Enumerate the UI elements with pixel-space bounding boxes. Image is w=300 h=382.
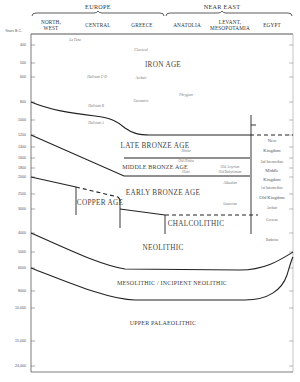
period-label: EARLY BRONZE AGE (126, 189, 201, 197)
y-tick-label: 1400 (18, 145, 26, 149)
culture-label: Hatti (181, 170, 189, 174)
egypt-period-label: Kingdom (263, 177, 281, 182)
y-tick-label: 500 (20, 61, 26, 65)
egypt-period-label: Gerzean (266, 218, 278, 222)
period-label: NEOLITHIC (142, 244, 183, 252)
y-tick-label: 1600 (18, 156, 26, 160)
column-north-west-line2: WEST (44, 25, 60, 31)
period-label: IRON AGE (145, 61, 181, 69)
period-label: MESOLITHIC / INCIPIENT NEOLITHIC (117, 280, 227, 286)
culture-label: Hittite (180, 149, 191, 153)
y-tick-label: 2500 (18, 192, 26, 196)
culture-label: Archaic (134, 76, 147, 80)
egypt-period-label: New (268, 138, 277, 143)
column-central: CENTRAL (85, 22, 110, 28)
column-greece: GREECE (131, 22, 152, 28)
culture-label: Classical (134, 48, 147, 52)
y-tick-label: 6000 (18, 266, 26, 270)
culture-label: Hallstatt B (87, 104, 104, 108)
y-axis-title: Years B.C. (5, 29, 22, 33)
egypt-period-label: 1st Intermediate (261, 186, 283, 190)
period-label: LATE BRONZE AGE (121, 142, 190, 150)
y-tick-label: 600 (20, 75, 26, 79)
chronology-diagram: EUROPE NEAR EAST NORTH, WEST CENTRAL GRE… (0, 0, 300, 382)
egypt-period-label: Archaic (267, 206, 278, 210)
period-labels: IRON AGELATE BRONZE AGEMIDDLE BRONZE AGE… (77, 61, 227, 326)
culture-label: La Tène (68, 38, 81, 42)
culture-label: Old Assyrian (221, 165, 240, 169)
y-tick-label: 8000 (18, 289, 26, 293)
y-tick-label: 1800 (18, 166, 26, 170)
column-egypt: EGYPT (263, 22, 281, 28)
y-tick-label: 1000 (18, 118, 26, 122)
culture-label: Old Hittite (178, 159, 194, 163)
culture-label: Hallstatt A (87, 121, 104, 125)
culture-label: Geometric (133, 99, 149, 103)
region-europe: EUROPE (85, 3, 111, 10)
y-tick-label: 400 (20, 43, 26, 47)
period-boundaries (31, 102, 293, 300)
y-tick-label: 10,000 (15, 306, 26, 310)
region-braces (32, 11, 292, 16)
y-tick-label: 24,000 (15, 364, 26, 368)
egypt-period-label: Kingdom (263, 148, 281, 153)
column-levant-line2: MESOPOTAMIA (210, 25, 250, 31)
y-tick-label: 3000 (18, 207, 26, 211)
y-tick-label: 2000 (18, 175, 26, 179)
y-tick-label: 800 (20, 100, 26, 104)
period-label: CHALCOLITHIC (168, 220, 225, 228)
egypt-period-label: Old Kingdom (259, 195, 285, 200)
culture-label: Phrygian (178, 93, 193, 97)
period-label: MIDDLE BRONZE AGE (122, 164, 188, 170)
y-tick-label: 1200 (18, 133, 26, 137)
y-tick-label: 4000 (18, 231, 26, 235)
y-tick-label: 5000 (18, 250, 26, 254)
egypt-dynasties: NewKingdom2nd IntermediateMiddleKingdom1… (259, 138, 285, 242)
period-label: UPPER PALAEOLITHIC (130, 320, 197, 326)
region-near-east: NEAR EAST (204, 3, 241, 10)
egypt-period-label: Middle (265, 168, 278, 173)
egypt-period-label: Badarian (266, 238, 279, 242)
y-tick-label: 15,000 (15, 339, 26, 343)
egypt-period-label: 2nd Intermediate (260, 160, 284, 164)
culture-label: Hallstatt C-D (86, 75, 107, 79)
culture-label: Old Babylonian (219, 170, 242, 174)
column-anatolia: ANATOLIA (173, 22, 201, 28)
culture-label: Sumerian (223, 202, 237, 206)
culture-label: Akkadian (222, 181, 237, 185)
period-label: COPPER AGE (77, 199, 124, 207)
